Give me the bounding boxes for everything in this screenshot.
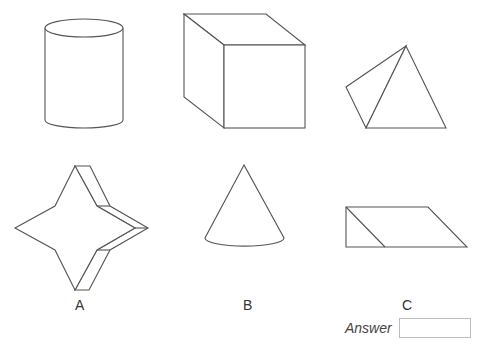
column-label-b: B <box>243 297 252 313</box>
column-label-c: C <box>402 297 412 313</box>
tetrahedron-shape <box>346 46 446 128</box>
star-prism-shape <box>15 166 148 290</box>
cone-shape <box>205 165 284 246</box>
cube-shape <box>184 14 305 128</box>
column-label-a: A <box>75 297 84 313</box>
parallelogram-prism-shape <box>346 207 467 247</box>
answer-input[interactable] <box>399 318 471 338</box>
answer-label: Answer <box>345 320 392 336</box>
cylinder-shape <box>45 19 123 128</box>
